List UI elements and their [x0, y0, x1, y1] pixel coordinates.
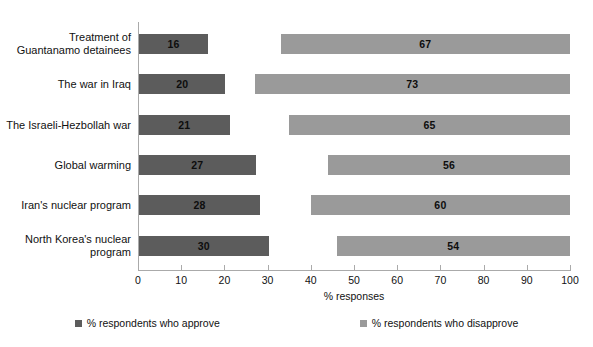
bar-value-approve: 27: [191, 159, 203, 171]
legend-swatch-disapprove-icon: [360, 320, 367, 327]
x-tick: [527, 265, 528, 270]
x-tick: [484, 265, 485, 270]
plot-area: 0102030405060708090100 Treatment of Guan…: [138, 22, 570, 270]
bar-row: North Korea's nuclear program3054: [138, 226, 570, 266]
x-tick: [311, 265, 312, 270]
x-tick: [354, 265, 355, 270]
category-label: Treatment of Guantanamo detainees: [3, 31, 131, 57]
x-tick-label: 100: [561, 274, 579, 286]
legend-label-disapprove: % respondents who disapprove: [372, 317, 519, 329]
bar-disapprove: 65: [289, 115, 570, 135]
x-tick: [570, 265, 571, 270]
x-tick: [440, 265, 441, 270]
x-tick: [224, 265, 225, 270]
bar-row: The war in Iraq2073: [138, 64, 570, 104]
x-tick-label: 40: [305, 274, 317, 286]
bar-row: Global warming2756: [138, 145, 570, 185]
bar-value-approve: 20: [176, 78, 188, 90]
bar-value-approve: 30: [198, 240, 210, 252]
x-tick-label: 80: [478, 274, 490, 286]
category-label: Global warming: [3, 158, 131, 171]
bar-value-disapprove: 60: [434, 199, 446, 211]
bar-approve: 21: [139, 115, 230, 135]
bar-approve: 16: [139, 34, 208, 54]
x-tick-label: 50: [348, 274, 360, 286]
x-axis-title: % responses: [138, 290, 570, 302]
x-tick-label: 30: [262, 274, 274, 286]
bar-disapprove: 67: [281, 34, 570, 54]
legend-label-approve: % respondents who approve: [87, 317, 220, 329]
category-label: The Israeli-Hezbollah war: [3, 118, 131, 131]
bar-approve: 27: [139, 155, 256, 175]
x-tick-label: 70: [435, 274, 447, 286]
bar-approve: 20: [139, 74, 225, 94]
category-label: Iran's nuclear program: [3, 199, 131, 212]
bar-value-disapprove: 56: [443, 159, 455, 171]
x-tick-label: 0: [135, 274, 141, 286]
bar-disapprove: 56: [328, 155, 570, 175]
x-tick: [138, 265, 139, 270]
bar-row: The Israeli-Hezbollah war2165: [138, 105, 570, 145]
x-tick: [397, 265, 398, 270]
bar-value-approve: 21: [178, 119, 190, 131]
x-axis-line: [138, 270, 571, 271]
category-label: North Korea's nuclear program: [3, 233, 131, 259]
legend-item-approve: % respondents who approve: [75, 317, 220, 329]
bar-disapprove: 54: [337, 236, 570, 256]
x-tick-label: 60: [391, 274, 403, 286]
x-tick-label: 10: [175, 274, 187, 286]
bar-row: Iran's nuclear program2860: [138, 185, 570, 225]
x-tick: [268, 265, 269, 270]
bar-approve: 30: [139, 236, 269, 256]
x-tick-label: 20: [219, 274, 231, 286]
bar-value-disapprove: 65: [424, 119, 436, 131]
legend-item-disapprove: % respondents who disapprove: [360, 317, 519, 329]
category-label: The war in Iraq: [3, 78, 131, 91]
bar-chart: Percentage approving and disapproving 01…: [0, 0, 593, 347]
legend-swatch-approve-icon: [75, 320, 82, 327]
x-tick: [181, 265, 182, 270]
bar-approve: 28: [139, 195, 260, 215]
bar-disapprove: 60: [311, 195, 570, 215]
bar-value-disapprove: 73: [406, 78, 418, 90]
bar-disapprove: 73: [255, 74, 570, 94]
x-tick-label: 90: [521, 274, 533, 286]
bar-value-disapprove: 67: [419, 38, 431, 50]
bar-value-approve: 16: [168, 38, 180, 50]
bar-value-disapprove: 54: [447, 240, 459, 252]
bar-row: Treatment of Guantanamo detainees1667: [138, 24, 570, 64]
legend: % respondents who approve % respondents …: [0, 317, 593, 329]
bar-value-approve: 28: [193, 199, 205, 211]
